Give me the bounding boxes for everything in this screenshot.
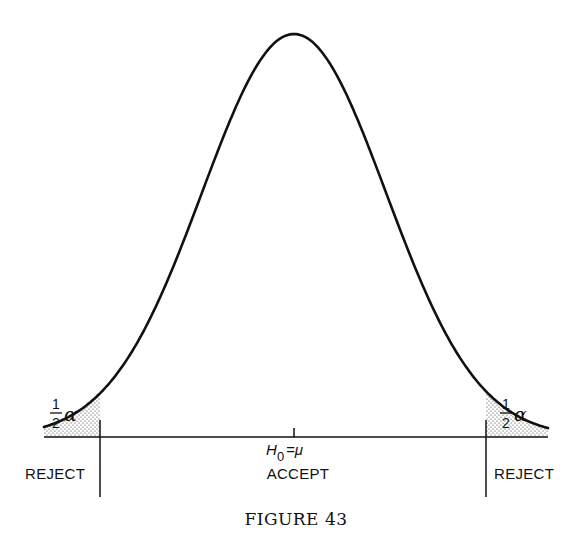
hypothesis-label: H 0 =μ: [266, 441, 303, 464]
reject-left-label: REJECT: [25, 465, 85, 482]
svg-text:=μ: =μ: [286, 441, 303, 458]
svg-text:1: 1: [52, 396, 60, 412]
reject-right-label: REJECT: [494, 465, 554, 482]
svg-text:α: α: [514, 403, 527, 425]
figure-caption: FIGURE 43: [244, 509, 347, 529]
svg-text:2: 2: [502, 415, 510, 431]
svg-text:α: α: [64, 403, 77, 425]
normal-curve: [44, 34, 548, 428]
svg-text:0: 0: [277, 449, 284, 464]
accept-label: ACCEPT: [267, 465, 330, 482]
svg-text:2: 2: [52, 415, 60, 431]
normal-distribution-figure: 1 2 α 1 2 α H 0 =μ ACCEPT REJECT REJECT …: [0, 0, 582, 556]
svg-text:H: H: [266, 441, 277, 458]
svg-text:1: 1: [502, 396, 510, 412]
